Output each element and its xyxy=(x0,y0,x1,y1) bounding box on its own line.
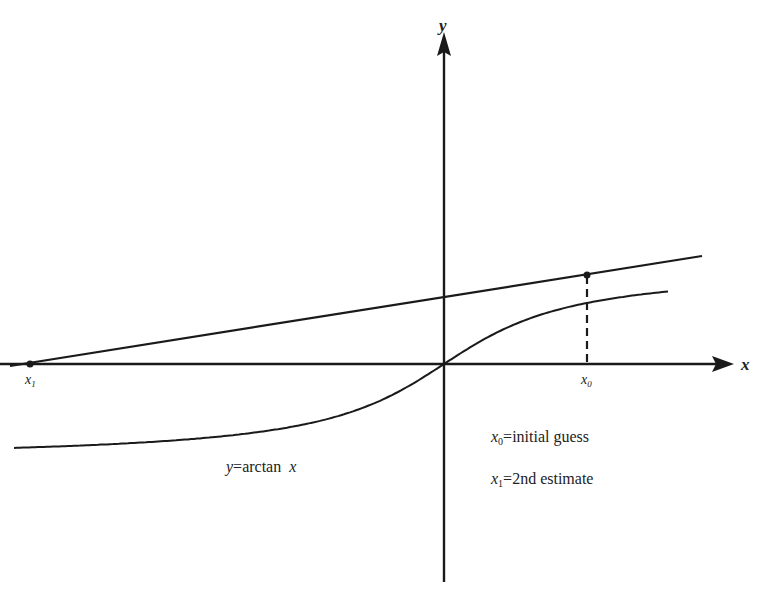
legend-x1-symbol: x xyxy=(490,470,498,487)
legend-item-x0: x0=initial guess xyxy=(490,428,589,447)
legend-x1-text: 2nd estimate xyxy=(512,470,593,487)
curve-label: y=arctanx xyxy=(224,458,296,476)
curve-label-fn: arctan xyxy=(242,458,281,475)
legend-x0-text: initial guess xyxy=(512,428,589,446)
legend-x0-symbol: x xyxy=(490,428,498,445)
tangent-line xyxy=(10,256,702,366)
x1-label: x1 xyxy=(24,372,36,389)
legend-x1-eq: = xyxy=(503,470,512,487)
x1-subscript: 1 xyxy=(31,379,36,389)
x0-label: x0 xyxy=(580,372,592,389)
x-axis-label: x xyxy=(740,355,750,374)
curve-label-eq: = xyxy=(233,458,242,475)
x0-subscript: 0 xyxy=(587,379,592,389)
arctan-curve xyxy=(14,292,668,448)
newton-method-diagram: x y x0 x1 y=arctanx x0=initial guess x1=… xyxy=(0,0,762,606)
y-axis-label: y xyxy=(437,16,447,35)
legend-x0-eq: = xyxy=(503,428,512,445)
x0-point xyxy=(584,272,591,279)
curve-label-x: x xyxy=(288,458,296,475)
legend-item-x1: x1=2nd estimate xyxy=(490,470,593,489)
x1-point xyxy=(27,361,34,368)
